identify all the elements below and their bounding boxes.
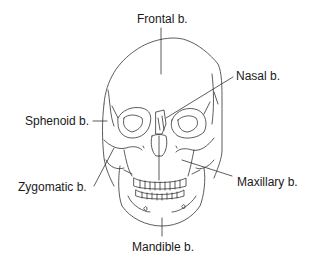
left-orbit — [118, 107, 151, 138]
nasal-bone — [156, 110, 166, 134]
maxillary-pointer — [182, 160, 232, 176]
skull-illustration — [0, 0, 314, 266]
right-orbit — [171, 108, 206, 138]
label-nasal-bone: Nasal b. — [236, 69, 280, 83]
label-mandible-bone: Mandible b. — [132, 240, 194, 254]
label-maxillary-bone: Maxillary b. — [237, 175, 298, 189]
nasal-pointer — [166, 77, 233, 118]
label-sphenoid-bone: Sphenoid b. — [25, 114, 89, 128]
label-zygomatic-bone: Zygomatic b. — [18, 180, 87, 194]
skull-diagram: Frontal b. Nasal b. Sphenoid b. Zygomati… — [0, 0, 314, 266]
cranium-outline — [104, 38, 222, 178]
label-frontal-bone: Frontal b. — [137, 12, 188, 26]
